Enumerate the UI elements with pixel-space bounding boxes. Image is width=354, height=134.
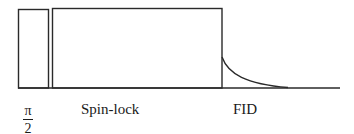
pi-over-2-pulse bbox=[19, 10, 49, 89]
pulse-sequence-diagram bbox=[0, 0, 354, 134]
spin-lock-label: Spin-lock bbox=[81, 102, 139, 117]
pi-symbol: π bbox=[24, 104, 31, 119]
pi-over-2-label: π 2 bbox=[23, 104, 33, 134]
spin-lock-pulse bbox=[53, 9, 223, 89]
fid-decay-curve bbox=[222, 57, 288, 88]
fid-label: FID bbox=[233, 102, 257, 117]
fraction-denominator: 2 bbox=[25, 120, 32, 134]
